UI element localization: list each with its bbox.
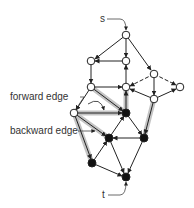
node-i [122,109,130,117]
edge-k-t [128,138,144,173]
edge-e-i [91,87,123,111]
flow-network-diagram: s forward edge backward edge t [0,0,194,208]
t-leader [108,182,126,195]
edge-s-a [95,35,126,59]
backward-edge-label: backward edge [10,125,78,136]
s-leader [107,19,126,30]
forward-edge-curve-arrow [88,101,104,110]
edge-j-t [109,138,124,173]
node-d [176,83,184,91]
node-s [122,31,130,39]
augmenting-path-highlight [74,87,154,163]
forward-edge-label: forward edge [10,91,69,102]
node-e [87,83,95,91]
source-label: s [100,13,105,24]
sink-label: t [102,189,105,200]
node-j [105,134,113,142]
edge-g-k [145,99,154,134]
node-f [122,83,130,91]
node-h [70,109,78,117]
forward-edge-leader [76,97,84,109]
node-g [150,95,158,103]
node-t [122,173,130,181]
node-c [150,70,158,78]
edge-s-c [126,35,151,70]
node-a [87,57,95,65]
node-k [140,134,148,142]
edge-l-t [92,163,122,176]
node-l [88,159,96,167]
node-b [122,57,130,65]
